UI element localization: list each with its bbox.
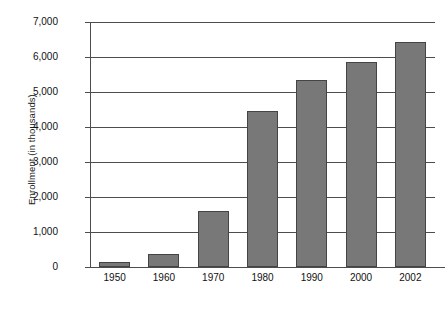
x-tick-label: 1990 (301, 272, 323, 283)
y-tick-label: 7,000 (12, 17, 58, 27)
bars-layer (90, 22, 435, 267)
y-tick-label: 1,000 (12, 227, 58, 237)
bar (296, 80, 327, 267)
x-tick-label: 1960 (153, 272, 175, 283)
bar (346, 62, 377, 267)
plot-area (90, 22, 435, 267)
bar (99, 262, 130, 267)
y-tick-label: 3,000 (12, 157, 58, 167)
bar (395, 42, 426, 267)
y-tick-label: 0 (12, 262, 58, 272)
bar-chart: Enrollment (in thousands) 01,0002,0003,0… (0, 0, 446, 311)
y-tick-label: 6,000 (12, 52, 58, 62)
x-tick-label: 1950 (104, 272, 126, 283)
y-axis-tick-labels: 01,0002,0003,0004,0005,0006,0007,000 (12, 0, 58, 311)
bar (148, 254, 179, 267)
x-tick-label: 1980 (251, 272, 273, 283)
x-tick-label: 1970 (202, 272, 224, 283)
y-tick-label: 2,000 (12, 192, 58, 202)
x-tick-label: 2000 (350, 272, 372, 283)
bar (198, 211, 229, 267)
y-tick-label: 4,000 (12, 122, 58, 132)
y-tick-label: 5,000 (12, 87, 58, 97)
x-axis-line (90, 267, 445, 268)
x-axis-tick-labels: 1950196019701980199020002002 (90, 272, 445, 292)
bar (247, 111, 278, 267)
x-tick-label: 2002 (399, 272, 421, 283)
